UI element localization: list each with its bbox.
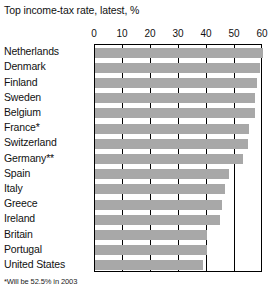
bar-britain bbox=[95, 230, 207, 240]
bar-row bbox=[95, 184, 263, 194]
x-tick-label-40: 40 bbox=[200, 28, 211, 39]
x-tick-label-0: 0 bbox=[91, 28, 97, 39]
category-label-denmark: Denmark bbox=[4, 61, 46, 72]
bar-row bbox=[95, 78, 263, 88]
bar-netherlands bbox=[95, 48, 263, 58]
category-label-spain: Spain bbox=[4, 168, 30, 179]
x-tick-label-10: 10 bbox=[116, 28, 127, 39]
category-label-belgium: Belgium bbox=[4, 107, 41, 118]
bar-belgium bbox=[95, 108, 255, 118]
chart-figure: Top income-tax rate, latest, % 010203040… bbox=[0, 0, 269, 287]
category-label-france: France* bbox=[4, 122, 40, 133]
category-label-germany: Germany** bbox=[4, 153, 54, 164]
chart-title: Top income-tax rate, latest, % bbox=[4, 4, 139, 16]
x-tick-label-50: 50 bbox=[228, 28, 239, 39]
category-label-ireland: Ireland bbox=[4, 213, 35, 224]
bar-france bbox=[95, 124, 249, 134]
category-label-netherlands: Netherlands bbox=[4, 46, 59, 57]
bar-row bbox=[95, 245, 263, 255]
category-label-united-states: United States bbox=[4, 259, 65, 270]
bar-row bbox=[95, 63, 263, 73]
y-axis-category-labels: NetherlandsDenmarkFinlandSwedenBelgiumFr… bbox=[0, 44, 92, 272]
category-label-britain: Britain bbox=[4, 229, 33, 240]
bar-row bbox=[95, 108, 263, 118]
bar-sweden bbox=[95, 93, 255, 103]
bar-portugal bbox=[95, 245, 207, 255]
x-tick-label-30: 30 bbox=[172, 28, 183, 39]
bar-row bbox=[95, 200, 263, 210]
category-label-finland: Finland bbox=[4, 77, 37, 88]
bar-spain bbox=[95, 169, 229, 179]
bar-denmark bbox=[95, 63, 260, 73]
x-axis-tick-labels: 0102030405060 bbox=[0, 28, 269, 42]
plot-area bbox=[94, 44, 262, 272]
chart-footnote: *Will be 52.5% in 2003 bbox=[4, 277, 77, 286]
category-label-sweden: Sweden bbox=[4, 92, 41, 103]
category-label-italy: Italy bbox=[4, 183, 23, 194]
bar-united-states bbox=[95, 260, 203, 270]
bar-row bbox=[95, 139, 263, 149]
x-tick-label-60: 60 bbox=[256, 28, 267, 39]
bar-row bbox=[95, 124, 263, 134]
bar-finland bbox=[95, 78, 257, 88]
bar-ireland bbox=[95, 215, 220, 225]
bar-italy bbox=[95, 184, 225, 194]
bar-greece bbox=[95, 200, 222, 210]
bar-row bbox=[95, 93, 263, 103]
x-tick-label-20: 20 bbox=[144, 28, 155, 39]
bar-row bbox=[95, 154, 263, 164]
bar-switzerland bbox=[95, 139, 248, 149]
bar-row bbox=[95, 260, 263, 270]
bar-row bbox=[95, 48, 263, 58]
category-label-greece: Greece bbox=[4, 198, 38, 209]
bar-germany bbox=[95, 154, 243, 164]
category-label-portugal: Portugal bbox=[4, 244, 42, 255]
category-label-switzerland: Switzerland bbox=[4, 137, 57, 148]
bar-row bbox=[95, 169, 263, 179]
bar-row bbox=[95, 230, 263, 240]
bar-row bbox=[95, 215, 263, 225]
